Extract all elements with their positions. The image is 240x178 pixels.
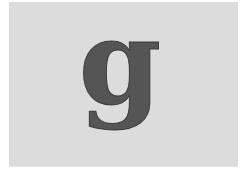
letter-g: g <box>79 0 162 132</box>
letter-g-graphic: g <box>0 0 240 178</box>
